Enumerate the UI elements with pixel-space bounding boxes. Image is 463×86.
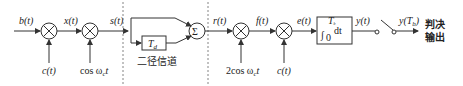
multiplier-4 xyxy=(276,23,292,39)
c-label-2: c(t) xyxy=(277,65,292,77)
integrator-block: ∫ Tb 0 dt xyxy=(317,15,352,44)
output-label-line1: 判决 xyxy=(425,18,446,30)
signal-sampled-label: y(Tb) xyxy=(398,15,420,28)
signal-b-label: b(t) xyxy=(19,15,34,27)
channel-label: 二径信道 xyxy=(137,55,177,67)
two-path-channel: Td Σ xyxy=(131,18,205,51)
c-label-1: c(t) xyxy=(42,65,57,77)
svg-text:0: 0 xyxy=(326,32,331,43)
signal-e-label: e(t) xyxy=(297,15,312,27)
carrier-label-2: 2cos ωct xyxy=(226,65,260,78)
svg-text:∫: ∫ xyxy=(320,29,325,41)
output-label-line2: 输出 xyxy=(425,31,445,43)
multiplier-3 xyxy=(233,23,249,39)
signal-r-label: r(t) xyxy=(213,15,227,27)
sampling-switch xyxy=(375,20,396,34)
multiplier-2 xyxy=(82,23,98,39)
multiplier-1 xyxy=(41,23,57,39)
signal-f-label: f(t) xyxy=(256,15,269,27)
delay-label: Td xyxy=(148,38,158,51)
svg-text:dt: dt xyxy=(334,25,342,36)
signal-y-label: y(t) xyxy=(355,15,371,27)
summer-symbol: Σ xyxy=(192,26,198,37)
signal-x-label: x(t) xyxy=(63,15,79,27)
block-diagram: b(t) c(t) x(t) cos ωct s(t) Td Σ 二径信道 r(… xyxy=(0,0,463,86)
carrier-label-1: cos ωct xyxy=(80,65,109,78)
signal-s-label: s(t) xyxy=(110,15,124,27)
